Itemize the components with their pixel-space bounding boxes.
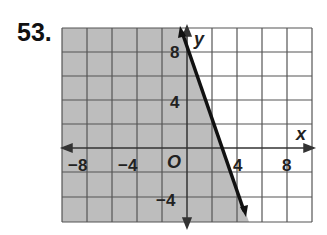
inequality-graph: −8 −4 4 8 8 4 −4 O y x: [0, 0, 327, 235]
y-tick-4: 4: [170, 93, 180, 112]
x-tick-4: 4: [233, 156, 243, 175]
origin-label: O: [167, 152, 181, 172]
y-tick-8: 8: [170, 43, 179, 62]
y-tick-neg4: −4: [156, 191, 176, 210]
x-tick-neg8: −8: [68, 156, 87, 175]
x-tick-neg4: −4: [118, 156, 138, 175]
x-tick-8: 8: [282, 156, 291, 175]
y-axis-label: y: [193, 29, 205, 49]
x-axis-label: x: [295, 124, 307, 144]
